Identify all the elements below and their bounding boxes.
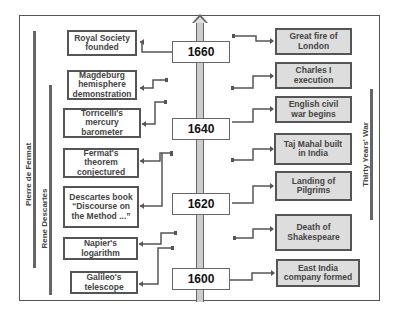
event-shakespeare: Death of Shakespeare (275, 214, 352, 251)
lifespan-bar-fermat (33, 31, 36, 268)
event-civil-war: English civil war begins (275, 96, 352, 123)
event-descartes-book: Descartes book “Discourse on the Method … (63, 186, 139, 228)
event-napier: Napier's logarithm (63, 237, 138, 260)
event-galileo: Galileo's telescope (70, 271, 138, 294)
year-label-1640: 1640 (172, 118, 230, 140)
lifespan-label-descartes: Rene Descartes (40, 179, 49, 259)
event-taj-mahal: Taj Mahal built in India (274, 133, 352, 165)
event-east-india: East India company formed (276, 259, 360, 287)
event-torricelli: Torricelli's mercury barometer (63, 108, 141, 138)
event-pilgrims: Landing of Pilgrims (275, 171, 352, 201)
event-fermat-theorem: Fermat's theorem conjectured (63, 148, 139, 178)
event-royal-society: Royal Society founded (67, 30, 137, 56)
lifespan-bar-descartes (49, 85, 52, 295)
lifespan-label-thirty-years-war: Thirty Years' War (361, 110, 370, 200)
event-charles-execution: Charles I execution (275, 62, 352, 89)
year-label-1620: 1620 (172, 193, 230, 215)
lifespan-bar-thirty-years-war (370, 89, 373, 220)
event-great-fire: Great fire of London (275, 28, 352, 55)
lifespan-label-fermat: Pierre de Fermat (24, 135, 33, 215)
year-label-1660: 1660 (172, 41, 230, 63)
year-label-1600: 1600 (172, 268, 230, 290)
event-magdeburg: Magdeburg hemisphere demonstration (67, 70, 137, 100)
